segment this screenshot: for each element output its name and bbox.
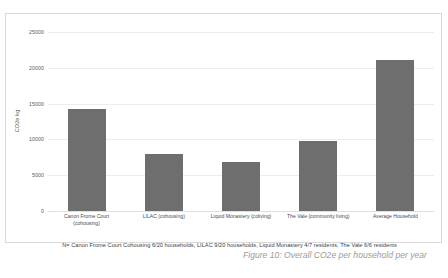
y-tick-label: 0 bbox=[41, 208, 44, 214]
bar[interactable] bbox=[222, 162, 260, 211]
x-axis-label: The Vale (community living) bbox=[280, 213, 357, 220]
chart-frame: CO2e kg 0500010000150002000025000 Canon … bbox=[5, 13, 442, 243]
x-axis-label: LILAC (cohousing) bbox=[125, 213, 202, 220]
x-axis-label-line: Canon Frome Court bbox=[48, 213, 125, 220]
x-axis-tick-labels: Canon Frome Court(cohousing)LILAC (cohou… bbox=[48, 213, 434, 239]
bar[interactable] bbox=[376, 60, 414, 211]
bar[interactable] bbox=[68, 109, 106, 211]
figure-caption-line-1: Figure 10: Overall CO2e per household bbox=[243, 250, 393, 260]
y-tick-label: 5000 bbox=[32, 172, 44, 178]
x-axis-label-line: Liquid Monastery (coliving) bbox=[202, 213, 279, 220]
bar-slot bbox=[280, 32, 357, 211]
y-tick-label: 20000 bbox=[29, 65, 44, 71]
figure-caption: Figure 10: Overall CO2e per household pe… bbox=[230, 250, 440, 261]
y-axis-title: CO2e kg bbox=[14, 110, 20, 133]
x-axis-label: Canon Frome Court(cohousing) bbox=[48, 213, 125, 227]
bar-slot bbox=[202, 32, 279, 211]
y-tick-label: 15000 bbox=[29, 101, 44, 107]
x-axis-label: Average Household bbox=[357, 213, 434, 220]
y-tick-label: 10000 bbox=[29, 136, 44, 142]
bar[interactable] bbox=[299, 141, 337, 211]
x-axis-label-line: The Vale (community living) bbox=[280, 213, 357, 220]
bar-slot bbox=[357, 32, 434, 211]
x-axis-label-line: Average Household bbox=[357, 213, 434, 220]
chart-footnote: N= Canon Frome Court Cohousing 6/20 hous… bbox=[11, 242, 448, 248]
figure-caption-line-2: per year bbox=[395, 250, 427, 260]
bar-slot bbox=[48, 32, 125, 211]
y-tick-label: 25000 bbox=[29, 29, 44, 35]
x-axis-label: Liquid Monastery (coliving) bbox=[202, 213, 279, 220]
bar[interactable] bbox=[145, 154, 183, 211]
x-axis-label-line: LILAC (cohousing) bbox=[125, 213, 202, 220]
gridline-0 bbox=[48, 211, 434, 212]
bar-series bbox=[48, 32, 434, 211]
plot-area: 0500010000150002000025000 bbox=[48, 32, 434, 211]
bar-slot bbox=[125, 32, 202, 211]
x-axis-label-line: (cohousing) bbox=[48, 220, 125, 227]
